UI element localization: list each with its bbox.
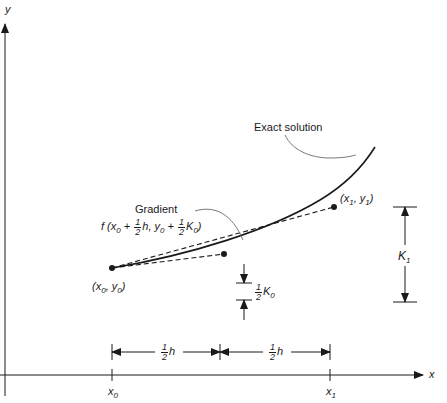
gradient-formula: f (x0 + 12h, y0 + 12K0) [101, 218, 202, 237]
k1-label: K1 [398, 250, 410, 265]
exact-solution-label: Exact solution [254, 122, 322, 133]
half-h-label-2: 12h [268, 343, 283, 362]
gradient-label-title: Gradient [135, 204, 177, 215]
point-half-step [221, 251, 227, 257]
half-h-dimension [112, 344, 330, 360]
gradient-leader [195, 209, 243, 240]
x-axis-label: x [429, 369, 435, 380]
y-axis-label: y [5, 4, 11, 15]
half-h-label-1: 12h [160, 343, 175, 362]
half-k0-label: 12K0 [254, 283, 275, 302]
gradient-step-line [112, 207, 334, 268]
tick-x0-label: x0 [108, 386, 118, 400]
point-x1-y1 [331, 204, 337, 210]
point-x0-y0-label: (x0, y0) [92, 281, 125, 295]
point-x1-y1-label: (x1, y1) [340, 193, 373, 207]
half-k0-dimension [236, 264, 252, 320]
diagram-canvas [0, 0, 447, 403]
x-axis [0, 369, 423, 381]
tick-x1-label: x1 [326, 386, 336, 400]
exact-solution-leader [285, 135, 356, 158]
point-x0-y0 [109, 265, 115, 271]
